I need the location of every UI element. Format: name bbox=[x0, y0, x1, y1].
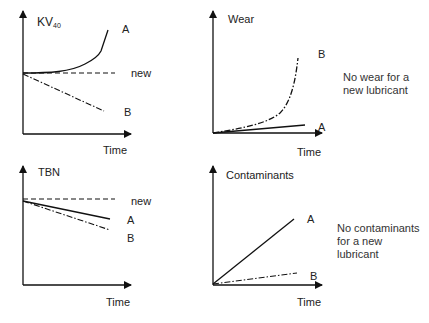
tbn-label-b: B bbox=[127, 232, 134, 244]
tbn-y-label: TBN bbox=[38, 166, 60, 178]
tbn-x-label: Time bbox=[106, 296, 130, 308]
kv40-label-new: new bbox=[131, 67, 151, 79]
contaminants-note: No contaminants for a new lubricant bbox=[337, 222, 420, 261]
contaminants-label-b: B bbox=[310, 270, 317, 282]
contaminants-a-line bbox=[213, 219, 294, 284]
tbn-panel: TBN new A B Time bbox=[23, 166, 151, 308]
wear-b-curve bbox=[213, 58, 298, 133]
kv40-panel: KV40 A new B Time bbox=[23, 11, 151, 156]
wear-y-label: Wear bbox=[228, 13, 254, 25]
contaminants-x-label: Time bbox=[297, 296, 321, 308]
tbn-a-line bbox=[23, 201, 110, 219]
wear-label-b: B bbox=[318, 48, 325, 60]
tbn-label-a: A bbox=[127, 214, 135, 226]
wear-note-line1: No wear for a bbox=[343, 71, 409, 84]
lubricant-condition-diagram: KV40 A new B Time Wear B A Time TBN new … bbox=[0, 0, 429, 323]
wear-note: No wear for a new lubricant bbox=[343, 71, 409, 97]
kv40-label-b: B bbox=[124, 106, 131, 118]
wear-panel: Wear B A Time bbox=[213, 11, 326, 158]
wear-label-a: A bbox=[318, 121, 326, 133]
contaminants-panel: Contaminants A B Time bbox=[213, 166, 322, 308]
contaminants-note-line2: for a new bbox=[337, 235, 420, 248]
contaminants-note-line1: No contaminants bbox=[337, 222, 420, 235]
contaminants-label-a: A bbox=[307, 213, 315, 225]
kv40-x-label: Time bbox=[103, 144, 127, 156]
wear-x-label: Time bbox=[297, 146, 321, 158]
kv40-y-label: KV40 bbox=[37, 15, 61, 29]
diagram-svg: KV40 A new B Time Wear B A Time TBN new … bbox=[0, 0, 429, 323]
kv40-b-line bbox=[23, 74, 104, 111]
kv40-a-curve bbox=[23, 30, 108, 73]
tbn-label-new: new bbox=[131, 195, 151, 207]
contaminants-y-label: Contaminants bbox=[226, 169, 294, 181]
contaminants-note-line3: lubricant bbox=[337, 248, 420, 261]
kv40-label-a: A bbox=[122, 23, 130, 35]
tbn-b-line bbox=[23, 201, 110, 230]
wear-a-line bbox=[213, 125, 305, 133]
wear-note-line2: new lubricant bbox=[343, 84, 409, 97]
